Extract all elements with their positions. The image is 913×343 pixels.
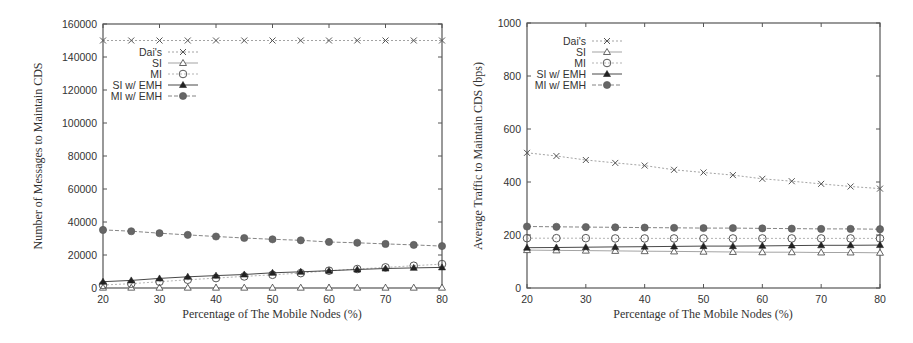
y-tick-label: 80000 (68, 150, 97, 162)
data-point-marker (612, 160, 618, 166)
data-point-marker (128, 228, 135, 235)
data-point-marker (354, 284, 361, 290)
y-tick-label: 60000 (68, 183, 97, 195)
legend-marker (603, 81, 610, 88)
legend-marker (604, 71, 611, 77)
x-tick-label: 60 (756, 293, 768, 305)
data-point-marker (700, 225, 707, 232)
data-point-marker (729, 225, 736, 232)
x-tick-label: 40 (210, 293, 222, 305)
data-point-marker (213, 284, 220, 290)
y-tick-label: 140000 (62, 51, 97, 63)
data-point-marker (788, 242, 795, 248)
data-point-marker (553, 244, 560, 250)
legend-label: MI w/ EMH (111, 90, 162, 102)
data-point-marker (729, 248, 736, 254)
data-point-marker (641, 224, 648, 231)
plot-area: 0200004000060000800001000001200001400001… (62, 18, 448, 305)
series-dai-s (100, 38, 445, 44)
data-point-marker (241, 284, 248, 290)
x-tick-label: 50 (698, 293, 710, 305)
data-point-marker (382, 240, 389, 247)
y-tick-label: 200 (503, 229, 521, 241)
x-tick-label: 30 (154, 293, 166, 305)
data-point-marker (185, 38, 191, 44)
data-point-marker (382, 284, 389, 290)
data-point-marker (156, 230, 163, 237)
data-point-marker (788, 225, 795, 232)
x-axis-label: Percentage of The Mobile Nodes (%) (613, 307, 792, 321)
data-point-marker (184, 284, 191, 290)
data-point-marker (612, 224, 619, 231)
data-point-marker (439, 284, 446, 290)
y-tick-label: 120000 (62, 84, 97, 96)
data-point-marker (818, 242, 825, 248)
data-point-marker (641, 243, 648, 249)
data-point-marker (270, 38, 276, 44)
data-point-marker (818, 249, 825, 255)
data-point-marker (241, 38, 247, 44)
chart-traffic: 0200400600800100020304050607080Dai'sSIMI… (456, 0, 913, 343)
chart-messages: 0200004000060000800001000001200001400001… (0, 0, 456, 343)
data-point-marker (877, 242, 884, 248)
data-point-marker (848, 184, 854, 190)
x-tick-label: 30 (580, 293, 592, 305)
y-tick-label: 160000 (62, 18, 97, 30)
legend-marker (179, 92, 186, 99)
data-point-marker (523, 223, 530, 230)
legend-marker (180, 60, 187, 66)
data-point-marker (582, 223, 589, 230)
legend-marker (180, 82, 187, 88)
data-point-marker (759, 176, 765, 182)
y-tick-label: 600 (503, 123, 521, 135)
data-point-marker (553, 223, 560, 230)
data-point-marker (788, 249, 795, 255)
x-tick-label: 20 (521, 293, 533, 305)
data-point-marker (847, 225, 854, 232)
legend: Dai'sSIMISI w/ EMHMI w/ EMH (535, 35, 622, 91)
x-tick-label: 70 (815, 293, 827, 305)
x-tick-label: 50 (267, 293, 279, 305)
y-tick-label: 40000 (68, 216, 97, 228)
series-dai-s (524, 150, 883, 192)
y-tick-label: 20000 (68, 249, 97, 261)
data-point-marker (325, 238, 332, 245)
data-point-marker (297, 237, 304, 244)
data-point-marker (759, 225, 766, 232)
data-point-marker (269, 284, 276, 290)
x-tick-label: 20 (97, 293, 109, 305)
data-point-marker (818, 225, 825, 232)
data-point-marker (582, 244, 589, 250)
data-point-marker (700, 243, 707, 249)
plot-area: 0200400600800100020304050607080Dai'sSIMI… (498, 17, 886, 305)
data-point-marker (612, 243, 619, 249)
data-point-marker (157, 38, 163, 44)
data-point-marker (759, 249, 766, 255)
series-si-w-emh (524, 242, 884, 251)
data-point-marker (326, 284, 333, 290)
x-tick-label: 70 (380, 293, 392, 305)
data-point-marker (128, 38, 134, 44)
y-tick-label: 100000 (62, 117, 97, 129)
data-point-marker (354, 239, 361, 246)
series-mi-w-emh (99, 226, 445, 249)
data-point-marker (847, 249, 854, 255)
data-point-marker (877, 249, 884, 255)
data-point-marker (241, 234, 248, 241)
data-point-marker (298, 38, 304, 44)
legend: Dai'sSIMISI w/ EMHMI w/ EMH (111, 46, 198, 102)
data-point-marker (671, 243, 678, 249)
series-mi (523, 234, 884, 242)
y-tick-label: 1000 (498, 17, 522, 29)
data-point-marker (701, 169, 707, 175)
x-tick-label: 80 (874, 293, 886, 305)
data-point-marker (876, 226, 883, 233)
data-point-marker (670, 224, 677, 231)
series-si (100, 284, 446, 290)
data-point-marker (553, 153, 559, 159)
data-point-marker (524, 244, 531, 250)
data-point-marker (212, 233, 219, 240)
y-axis-label: Number of Messages to Maintain CDS (31, 63, 45, 250)
x-tick-label: 80 (436, 293, 448, 305)
y-axis-label: Average Traffic to Maintain CDS (bps) (471, 62, 485, 250)
